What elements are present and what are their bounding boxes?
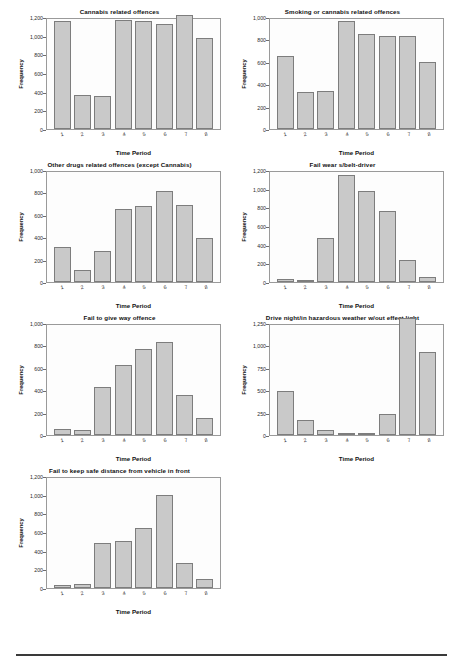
x-axis-label: Time Period	[269, 302, 444, 309]
bar	[277, 56, 294, 129]
chart-title: Other drugs related offences (except Can…	[12, 161, 227, 168]
y-tick-label: 400	[257, 243, 266, 249]
y-tick-label: 1,000	[30, 321, 43, 327]
bar	[196, 238, 213, 282]
chart-panel: Other drugs related offences (except Can…	[12, 159, 227, 311]
x-tick-label: 3	[317, 129, 335, 138]
plot-area-wrapper	[269, 171, 444, 283]
bar	[115, 209, 132, 282]
y-tick-label: 1,000	[253, 187, 266, 193]
y-tick-label: 0	[40, 433, 43, 439]
x-tick-label: 8	[420, 129, 438, 138]
x-tick-label: 4	[115, 129, 133, 138]
x-tick-label: 6	[379, 435, 397, 444]
y-tick-label: 0	[263, 433, 266, 439]
bar	[317, 91, 334, 129]
x-axis-ticks: 12345678	[46, 284, 221, 297]
y-tick-label: 1,200	[30, 474, 43, 480]
figure-sheet: Cannabis related offencesFrequency020040…	[0, 0, 463, 665]
x-tick-label: 5	[135, 129, 153, 138]
x-tick-label: 4	[115, 435, 133, 444]
y-axis-ticks: 02004006008001,000	[12, 171, 46, 283]
y-tick-label: 600	[34, 530, 43, 536]
x-tick-label: 5	[135, 435, 153, 444]
y-tick-label: 1,200	[253, 168, 266, 174]
x-axis-label: Time Period	[46, 455, 221, 462]
x-tick-label: 3	[94, 588, 112, 597]
plot-area	[46, 171, 221, 283]
plot-area	[269, 324, 444, 436]
bar	[338, 21, 355, 129]
bar	[135, 21, 152, 129]
bar-series	[275, 19, 438, 129]
bar	[176, 205, 193, 282]
y-tick-label: 800	[34, 343, 43, 349]
bar	[379, 414, 396, 435]
x-tick-label: 3	[94, 282, 112, 291]
x-axis-ticks: 12345678	[46, 437, 221, 450]
bar	[419, 352, 436, 435]
x-tick-label: 3	[94, 435, 112, 444]
x-tick-label: 1	[53, 435, 71, 444]
bar	[74, 430, 91, 436]
x-tick-label: 3	[94, 129, 112, 138]
x-axis-label: Time Period	[46, 302, 221, 309]
y-axis-ticks: 02004006008001,0001,200	[235, 171, 269, 283]
bar-series	[52, 325, 215, 435]
y-tick-label: 1,200	[30, 15, 43, 21]
y-tick-label: 800	[34, 511, 43, 517]
y-tick-label: 200	[257, 105, 266, 111]
y-tick-label: 400	[257, 82, 266, 88]
y-tick-label: 400	[34, 90, 43, 96]
bar	[176, 563, 193, 588]
chart-title: Cannabis related offences	[12, 8, 227, 15]
x-tick-label: 2	[297, 129, 315, 138]
bar	[54, 247, 71, 282]
plot-area	[46, 18, 221, 130]
bar	[358, 191, 375, 282]
plot-area-wrapper	[46, 171, 221, 283]
plot-area	[269, 18, 444, 130]
plot-area-wrapper	[269, 18, 444, 130]
x-axis-ticks: 12345678	[269, 437, 444, 450]
x-tick-label: 5	[135, 588, 153, 597]
x-tick-label: 7	[177, 282, 195, 291]
x-tick-label: 4	[338, 129, 356, 138]
bar	[94, 543, 111, 588]
bar-series	[52, 172, 215, 282]
x-tick-label: 2	[74, 435, 92, 444]
chart-panel: Drive night/in hazardous weather w/out e…	[235, 312, 450, 464]
bar	[115, 541, 132, 588]
x-tick-label: 1	[53, 588, 71, 597]
bar-series	[52, 19, 215, 129]
y-tick-label: 1,000	[30, 168, 43, 174]
bar	[358, 34, 375, 129]
y-tick-label: 1,000	[253, 15, 266, 21]
x-tick-label: 7	[177, 129, 195, 138]
y-tick-label: 200	[257, 261, 266, 267]
y-axis-ticks: 02505007501,0001,250	[235, 324, 269, 436]
x-tick-label: 1	[276, 282, 294, 291]
x-tick-label: 2	[74, 282, 92, 291]
y-tick-label: 1,000	[30, 34, 43, 40]
y-axis-ticks: 02004006008001,0001,200	[12, 477, 46, 589]
x-tick-label: 2	[74, 588, 92, 597]
x-axis-label: Time Period	[269, 149, 444, 156]
x-tick-label: 6	[156, 588, 174, 597]
x-tick-label: 6	[156, 282, 174, 291]
x-tick-label: 7	[177, 588, 195, 597]
y-tick-label: 600	[257, 60, 266, 66]
y-tick-label: 800	[34, 52, 43, 58]
y-tick-label: 800	[34, 190, 43, 196]
y-tick-label: 400	[34, 235, 43, 241]
chart-panel: Cannabis related offencesFrequency020040…	[12, 6, 227, 158]
x-tick-label: 4	[338, 282, 356, 291]
x-axis-ticks: 12345678	[269, 284, 444, 297]
x-tick-label: 8	[197, 435, 215, 444]
y-tick-label: 500	[257, 388, 266, 394]
y-tick-label: 200	[34, 108, 43, 114]
bar	[317, 430, 334, 435]
x-tick-label: 1	[276, 129, 294, 138]
bar	[176, 15, 193, 129]
chart-title: Fail to keep safe distance from vehicle …	[12, 467, 227, 474]
